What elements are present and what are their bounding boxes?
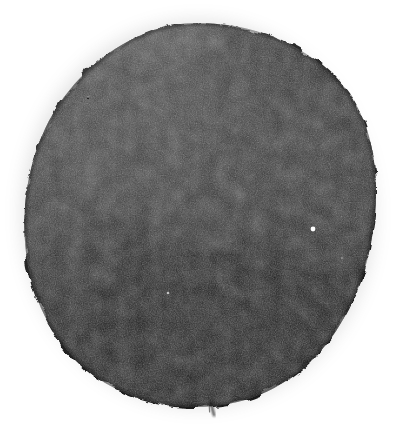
blob-figure [0,0,402,436]
speck-white-pinhole-primary [311,227,316,232]
speck-white-fleck-right [341,257,343,259]
image-canvas: Dark circular ink blob on white backgrou… [0,0,402,436]
speck-white-pinhole-faint [167,292,170,295]
speck-white-fleck-upper-left [87,96,89,98]
